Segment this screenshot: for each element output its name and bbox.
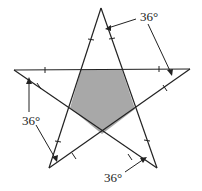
angle-label-bottom-right: 36° [104, 171, 122, 184]
angle-label-top-right: 36° [140, 10, 158, 23]
angle-label-left: 36° [22, 114, 40, 127]
star-edge [14, 69, 190, 70]
star-diagram [0, 0, 202, 191]
shaded-pentagon [70, 70, 135, 134]
